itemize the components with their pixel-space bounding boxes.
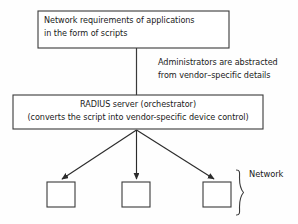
network-group-label: Network [249,168,283,181]
arrow-to-device-3 [137,130,215,179]
diagram-canvas: Network requirements of applications in … [0,0,298,224]
radius-line-1: RADIUS server (orchestrator) [13,98,263,111]
network-group-brace [237,170,244,215]
arrow-to-device-1 [62,130,137,179]
network-requirements-box-label: Network requirements of applications in … [44,14,195,39]
network-device-1-shape [47,182,75,207]
radius-line-2: (converts the script into vendor-specifi… [13,111,263,124]
network-device-3-shape [203,182,231,207]
requirements-line-2: in the form of scripts [44,27,195,40]
requirements-line-1: Network requirements of applications [44,14,195,27]
abstraction-note: Administrators are abstracted from vendo… [158,56,278,81]
abstraction-note-line-2: from vendor–specific details [158,69,278,82]
abstraction-note-line-1: Administrators are abstracted [158,56,278,69]
radius-server-box-label: RADIUS server (orchestrator) (converts t… [13,98,263,123]
network-device-2-shape [122,182,150,207]
